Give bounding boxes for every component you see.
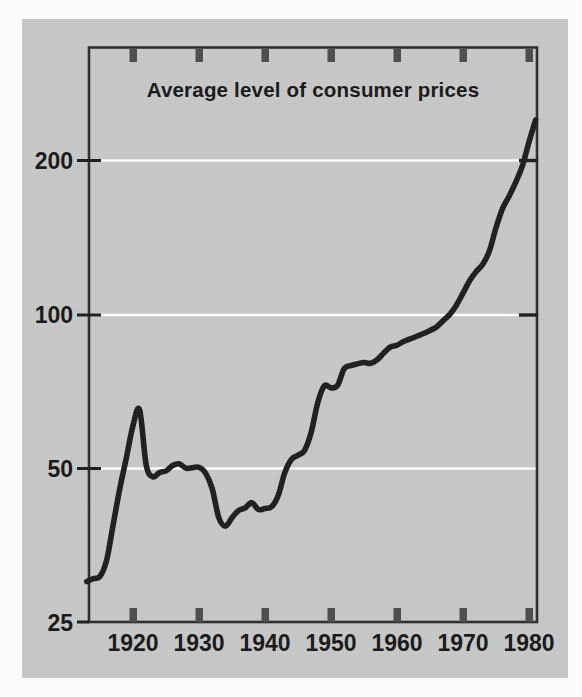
x-axis-ticks-bottom	[130, 608, 534, 622]
x-tick-top-1920	[130, 48, 138, 62]
y-tick-labels: 200 100 50 25	[35, 148, 74, 636]
x-tick-1920	[130, 608, 138, 622]
x-tick-label-1960: 1960	[371, 630, 422, 656]
x-tick-1960	[394, 608, 402, 622]
x-tick-label-1930: 1930	[173, 630, 224, 656]
chart-page: 200 100 50 25 1920 1930 1940 1950 1960 1…	[0, 0, 582, 697]
plot-frame	[89, 48, 537, 623]
x-tick-top-1950	[328, 48, 336, 62]
y-axis-right-ticks	[519, 161, 538, 316]
x-tick-1970	[460, 608, 468, 622]
y-tick-label-200: 200	[35, 148, 73, 174]
x-tick-label-1940: 1940	[239, 630, 290, 656]
price-index-line	[87, 120, 536, 581]
x-axis-ticks-top	[130, 48, 534, 62]
y-tick-label-50: 50	[47, 456, 73, 482]
plot-border	[89, 48, 537, 623]
x-tick-top-1960	[394, 48, 402, 62]
x-tick-1930	[196, 608, 204, 622]
x-tick-top-1970	[460, 48, 468, 62]
x-tick-1940	[262, 608, 270, 622]
x-tick-label-1920: 1920	[107, 630, 158, 656]
x-tick-top-1940	[262, 48, 270, 62]
x-tick-1980	[526, 608, 534, 622]
x-tick-labels: 1920 1930 1940 1950 1960 1970 1980	[107, 630, 554, 656]
x-tick-label-1970: 1970	[437, 630, 488, 656]
x-tick-top-1980	[526, 48, 534, 62]
chart-title: Average level of consumer prices	[147, 78, 480, 101]
x-tick-label-1980: 1980	[503, 630, 554, 656]
y-tick-label-100: 100	[35, 302, 73, 328]
y-tick-label-25: 25	[47, 610, 73, 636]
consumer-prices-line-chart: 200 100 50 25 1920 1930 1940 1950 1960 1…	[0, 0, 582, 697]
x-tick-label-1950: 1950	[305, 630, 356, 656]
x-tick-1950	[328, 608, 336, 622]
x-tick-top-1930	[196, 48, 204, 62]
